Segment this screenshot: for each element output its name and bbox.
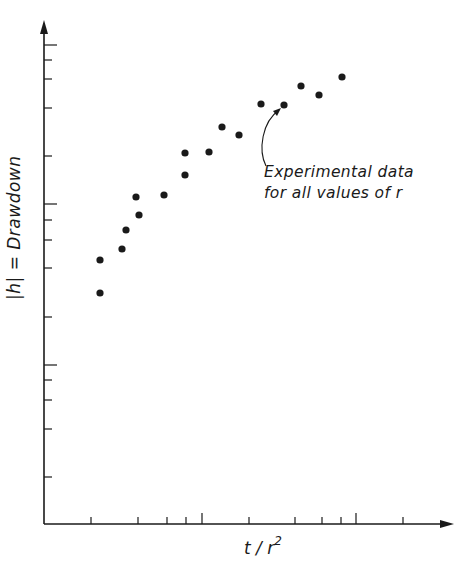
data-point (257, 100, 264, 107)
data-point (118, 245, 125, 252)
data-point (181, 149, 188, 156)
data-point (235, 131, 242, 138)
annotation-arrow (262, 108, 281, 166)
y-axis-arrow-icon (40, 20, 48, 34)
data-point (338, 73, 345, 80)
data-point (297, 82, 304, 89)
data-point (205, 148, 212, 155)
data-point (181, 171, 188, 178)
x-axis-arrow-icon (440, 520, 454, 528)
axes (40, 20, 454, 528)
data-point (122, 226, 129, 233)
annotation-line-2: for all values of r (264, 183, 414, 204)
x-axis-label: t / r2 (244, 536, 282, 558)
x-axis-label-base: t / r (244, 538, 274, 558)
data-point (135, 211, 142, 218)
y-axis-label: |h| = Drawdown (4, 155, 24, 300)
data-point (160, 191, 167, 198)
annotation-line-1: Experimental data (264, 162, 414, 183)
axis-ticks (44, 45, 403, 524)
data-point (132, 193, 139, 200)
scatter-plot (0, 0, 459, 564)
data-point (96, 289, 103, 296)
x-axis-label-exponent: 2 (274, 534, 282, 548)
data-point (280, 101, 287, 108)
data-point (315, 91, 322, 98)
data-point (218, 123, 225, 130)
data-point (96, 256, 103, 263)
annotation-text: Experimental data for all values of r (264, 162, 414, 204)
